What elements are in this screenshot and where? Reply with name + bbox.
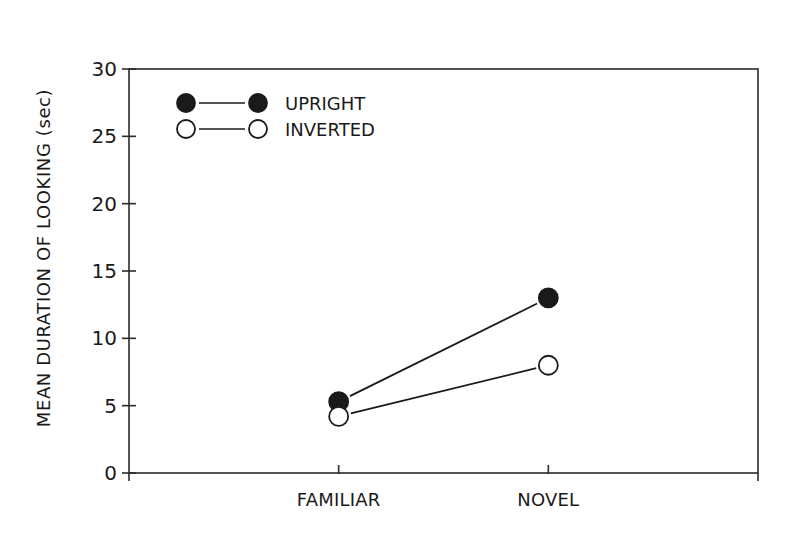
open-circle-icon <box>249 120 267 138</box>
legend-item-inverted: INVERTED <box>177 119 375 140</box>
open-circle-icon <box>177 120 195 138</box>
open-circle-marker <box>539 356 558 375</box>
series-inverted <box>329 356 558 426</box>
series-line <box>350 303 537 396</box>
line-chart: 051015202530 FAMILIARNOVEL MEAN DURATION… <box>0 0 788 534</box>
series-layer <box>329 288 558 426</box>
filled-circle-icon <box>177 94 195 112</box>
legend: UPRIGHTINVERTED <box>177 93 375 140</box>
y-axis-title: MEAN DURATION OF LOOKING (sec) <box>33 89 54 427</box>
legend-label: UPRIGHT <box>285 93 366 114</box>
filled-circle-marker <box>539 288 558 307</box>
filled-circle-icon <box>249 94 267 112</box>
y-tick-label: 15 <box>92 259 117 283</box>
y-tick-label: 25 <box>92 124 117 148</box>
legend-label: INVERTED <box>285 119 375 140</box>
series-upright <box>329 288 558 411</box>
y-tick-label: 30 <box>92 57 117 81</box>
legend-item-upright: UPRIGHT <box>177 93 366 114</box>
y-tick-label: 10 <box>92 326 117 350</box>
y-tick-label: 20 <box>92 192 117 216</box>
open-circle-marker <box>329 407 348 426</box>
y-tick-label: 5 <box>104 394 117 418</box>
series-line <box>351 368 536 413</box>
x-category-label: FAMILIAR <box>297 489 381 510</box>
x-axis: FAMILIARNOVEL <box>129 465 758 510</box>
y-tick-label: 0 <box>104 461 117 485</box>
x-category-label: NOVEL <box>517 489 579 510</box>
